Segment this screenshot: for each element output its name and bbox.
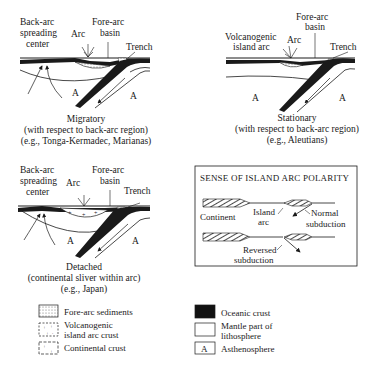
caption-title: Migratory: [67, 114, 106, 124]
label-normal: Normal: [311, 208, 339, 218]
legend: Fore-arc sediments +++. Volcanogenic isl…: [39, 305, 275, 354]
label-spreading: spreading: [20, 28, 57, 38]
swatch-fore-arc-sediments: [39, 305, 58, 317]
label-asthenosphere: A: [339, 93, 346, 103]
caption-subtitle: (with respect to back-arc region): [24, 125, 148, 136]
label-volcanogenic: Volcanogenic: [225, 32, 277, 42]
panel-migratory: Back-arc spreading center Arc Fore-arc b…: [20, 17, 153, 147]
caption-example: (e.g., Japan): [61, 284, 107, 295]
upwelling-arrow: [47, 66, 62, 98]
label-basin: basin: [100, 176, 120, 186]
label-back-arc: Back-arc: [20, 165, 54, 175]
label-trench: Trench: [124, 186, 151, 196]
label-back-arc: Back-arc: [20, 17, 54, 27]
swatch-symbol: A: [201, 344, 208, 354]
svg-text:+: +: [50, 349, 53, 354]
label-arc: Arc: [71, 29, 85, 39]
polarity-box-title: SENSE OF ISLAND ARC POLARITY: [200, 173, 349, 183]
panel-detached: +++ Back-arc spreading center Arc Fore-a…: [18, 165, 151, 295]
svg-text:+: +: [46, 331, 49, 336]
lithosphere-base: [226, 76, 315, 80]
svg-text:.: .: [52, 330, 53, 335]
legend-label: Continental crust: [64, 343, 126, 353]
label-asthenosphere: A: [67, 236, 74, 246]
label-reversed: Reversed: [243, 245, 277, 255]
caption-title: Stationary: [277, 113, 316, 123]
swatch-oceanic-crust: [195, 305, 215, 318]
label-trench: Trench: [126, 42, 153, 52]
label-fore-arc: Fore-arc: [92, 17, 124, 27]
volcano-rays: [82, 44, 94, 57]
polarity-box: SENSE OF ISLAND ARC POLARITY Continent I…: [195, 166, 357, 266]
label-asthenosphere: A: [72, 88, 79, 98]
caption-subtitle: (with respect to back-arc region): [235, 124, 359, 135]
label-asthenosphere: A: [252, 93, 259, 103]
legend-label: Oceanic crust: [221, 308, 271, 318]
label-arc: Arc: [287, 35, 301, 45]
label-spreading: spreading: [20, 176, 57, 186]
legend-label: island arc crust: [64, 330, 119, 340]
legend-label: Asthenosphere: [221, 344, 275, 354]
caption-subtitle: (continental sliver within arc): [28, 273, 141, 284]
continent-shape: [203, 199, 250, 207]
label-arc: arc: [258, 217, 269, 227]
svg-text:+: +: [50, 324, 53, 329]
label-subduction: subduction: [306, 219, 346, 229]
upwelling-arrow: [28, 66, 42, 94]
swatch-mantle-lithosphere: [195, 323, 215, 336]
label-fore-arc: Fore-arc: [296, 12, 328, 22]
label-subduction: subduction: [234, 255, 274, 265]
legend-label: Mantle part of: [221, 321, 272, 331]
legend-label: Fore-arc sediments: [64, 307, 133, 317]
caption-example: (e.g., Aleutians): [267, 135, 328, 146]
volcano-rays: [283, 46, 297, 58]
legend-label: lithosphere: [221, 331, 261, 341]
label-asthenosphere: A: [132, 236, 139, 246]
caption-example: (e.g., Tonga-Kermadec, Marianas): [21, 136, 152, 147]
label-trench: Trench: [330, 42, 357, 52]
upwelling-arrow: [24, 214, 40, 240]
label-basin: basin: [100, 28, 120, 38]
upwelling-arrow: [44, 214, 55, 245]
label-center: center: [26, 187, 50, 197]
svg-text:+: +: [43, 325, 46, 330]
label-island: Island: [253, 207, 275, 217]
lithosphere-base: [20, 70, 112, 81]
legend-label: Volcanogenic: [64, 320, 113, 330]
label-arc: Arc: [66, 178, 80, 188]
island-arc-diagram: Back-arc spreading center Arc Fore-arc b…: [0, 0, 376, 369]
svg-text:+: +: [43, 344, 46, 349]
label-center: center: [26, 39, 50, 49]
label-fore-arc: Fore-arc: [92, 165, 124, 175]
label-basin: basin: [305, 22, 325, 32]
panel-stationary: Volcanogenic island arc Arc Fore-arc bas…: [225, 12, 359, 146]
swatch-continental-crust: [39, 342, 58, 354]
label-island-arc: island arc: [233, 42, 270, 52]
label-asthenosphere: A: [130, 91, 137, 101]
continent-shape: [203, 233, 250, 241]
caption-title: Detached: [66, 262, 102, 272]
label-continent: Continent: [200, 212, 236, 222]
volcano-rays: [78, 195, 90, 206]
